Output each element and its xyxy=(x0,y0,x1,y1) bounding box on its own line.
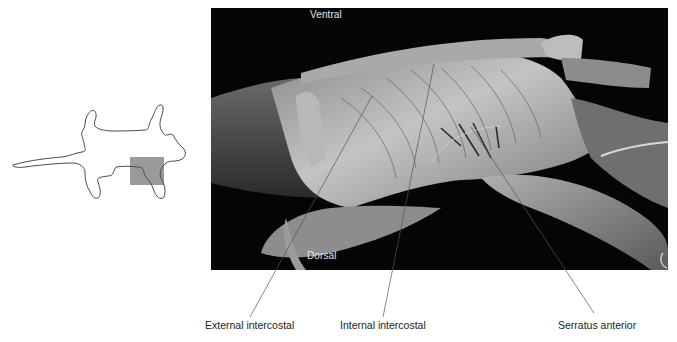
dissection-image xyxy=(211,8,668,270)
dissection-photo: Ventral Dorsal xyxy=(211,8,668,270)
cat-outline-icon xyxy=(0,95,200,210)
anatomy-figure: Ventral Dorsal External intercostal Inte… xyxy=(0,0,677,342)
label-external-intercostal: External intercostal xyxy=(205,319,294,331)
label-internal-intercostal: Internal intercostal xyxy=(340,319,426,331)
ventral-label: Ventral xyxy=(310,9,342,20)
label-serratus-anterior: Serratus anterior xyxy=(558,319,636,331)
highlight-region xyxy=(130,157,164,185)
dorsal-label: Dorsal xyxy=(307,250,337,261)
orientation-diagram xyxy=(0,95,200,210)
